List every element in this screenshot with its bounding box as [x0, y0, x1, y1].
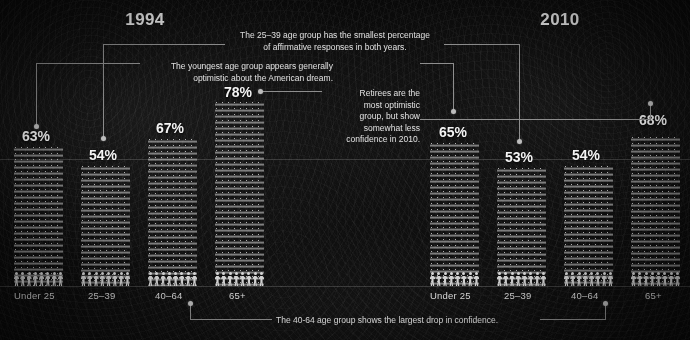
leader-drop-right-horizontal — [540, 319, 605, 320]
annotation-retirees: Retirees are the most optimistic group, … — [322, 88, 420, 146]
pictogram-stack — [215, 101, 264, 286]
value-label-2010-25-39: 53% — [505, 149, 533, 165]
bar-1994-25-39[interactable] — [81, 165, 130, 286]
leader-under25-2010-dot — [451, 109, 456, 114]
pictogram-base-row — [215, 270, 264, 286]
annotation-largest-drop: The 40-64 age group shows the largest dr… — [276, 315, 536, 327]
value-label-2010-65-plus: 68% — [639, 112, 667, 128]
leader-youngest-horizontal — [36, 63, 140, 64]
leader-drop-right-vertical — [605, 305, 606, 320]
leader-drop-vertical — [190, 305, 191, 320]
axis-label-1994-40-64: 40–64 — [155, 290, 182, 301]
axis-label-1994-65-plus: 65+ — [229, 290, 246, 301]
pictogram-base-row — [81, 270, 130, 286]
value-label-2010-40-64: 54% — [572, 147, 600, 163]
leader-smallest-left-dot — [101, 136, 106, 141]
leader-smallest-right-dot — [517, 139, 522, 144]
leader-drop-right-dot — [603, 301, 608, 306]
pictogram-stack — [148, 138, 197, 286]
pictogram-base-row — [631, 270, 680, 286]
pictogram-base-row — [14, 270, 63, 286]
axis-label-2010-65-plus: 65+ — [645, 290, 662, 301]
leader-smallest-right-horizontal — [444, 44, 519, 45]
leader-retirees-right-dot — [648, 101, 653, 106]
pictogram-stack — [81, 165, 130, 286]
annotation-youngest: The youngest age group appears generally… — [148, 61, 333, 84]
pictogram-base-row — [497, 270, 546, 286]
bar-2010-25-39[interactable] — [497, 167, 546, 286]
bar-2010-65-plus[interactable] — [631, 136, 680, 286]
leader-youngest-dot — [34, 124, 39, 129]
pictogram-stack — [564, 165, 613, 286]
axis-label-2010-25-39: 25–39 — [504, 290, 531, 301]
bar-1994-under-25[interactable] — [14, 146, 63, 286]
pictogram-base-row — [564, 270, 613, 286]
bar-1994-65-plus[interactable] — [215, 101, 264, 286]
pictogram-base-row — [430, 270, 479, 286]
bar-2010-40-64[interactable] — [564, 165, 613, 286]
value-label-1994-under-25: 63% — [22, 128, 50, 144]
pictogram-stack — [497, 167, 546, 286]
value-label-1994-65-plus: 78% — [224, 84, 252, 100]
pictogram-stack — [14, 146, 63, 286]
annotation-smallest: The 25–39 age group has the smallest per… — [232, 30, 438, 53]
axis-label-2010-under-25: Under 25 — [430, 290, 471, 301]
value-label-1994-40-64: 67% — [156, 120, 184, 136]
bar-1994-40-64[interactable] — [148, 138, 197, 286]
leader-retirees-right-horizontal — [420, 119, 650, 120]
leader-under25-2010-vertical — [453, 63, 454, 111]
pictogram-stack — [631, 136, 680, 286]
year-heading-2010: 2010 — [520, 10, 600, 30]
bar-2010-under-25[interactable] — [430, 142, 479, 286]
axis-label-1994-25-39: 25–39 — [88, 290, 115, 301]
leader-smallest-left-vertical — [103, 44, 104, 138]
year-heading-1994: 1994 — [105, 10, 185, 30]
value-label-1994-25-39: 54% — [89, 147, 117, 163]
axis-label-1994-under-25: Under 25 — [14, 290, 55, 301]
leader-drop-horizontal — [190, 319, 272, 320]
axis-label-2010-40-64: 40–64 — [571, 290, 598, 301]
leader-youngest-vertical — [36, 63, 37, 126]
leader-smallest-left-horizontal — [103, 44, 225, 45]
leader-under25-2010-horizontal — [420, 63, 454, 64]
pictogram-base-row — [148, 270, 197, 286]
leader-retirees-left-horizontal — [260, 91, 322, 92]
leader-smallest-right-vertical — [519, 44, 520, 141]
infographic-canvas: 1994 2010 63% Under 25 54% 25–39 67% 40–… — [0, 0, 690, 340]
leader-retirees-right-vertical — [650, 105, 651, 120]
hairline-lower — [0, 286, 690, 287]
value-label-2010-under-25: 65% — [439, 124, 467, 140]
pictogram-stack — [430, 142, 479, 286]
leader-retirees-left-dot — [258, 89, 263, 94]
leader-drop-dot — [188, 301, 193, 306]
